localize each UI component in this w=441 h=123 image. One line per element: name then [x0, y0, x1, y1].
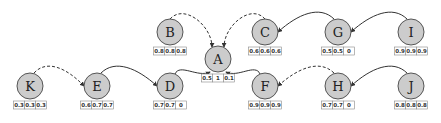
node-label: E [92, 79, 102, 94]
node-label: B [165, 25, 175, 40]
node-label: C [260, 25, 270, 40]
value-text: 0 [347, 48, 351, 54]
edge-d-to-a [175, 70, 210, 74]
node-label: D [165, 79, 175, 94]
value-text: 0.6 [260, 48, 270, 54]
value-text: 0.8 [395, 102, 405, 108]
node-f: F0.90.90.9 [249, 73, 282, 109]
node-h: H0.70.70 [322, 73, 355, 109]
value-text: 0.6 [249, 48, 259, 54]
value-text: 0.7 [92, 102, 102, 108]
graph-canvas: A0.510.1B0.80.80.8C0.60.60.6D0.70.70E0.6… [0, 0, 441, 123]
value-text: 0.9 [417, 48, 427, 54]
node-k: K0.30.30.3 [14, 73, 47, 109]
value-text: 0.1 [224, 75, 234, 81]
value-text: 0.7 [322, 102, 332, 108]
value-text: 0.8 [165, 48, 175, 54]
node-label: I [408, 25, 413, 40]
node-label: G [333, 25, 343, 40]
value-text: 0.7 [154, 102, 164, 108]
value-text: 0.3 [25, 102, 35, 108]
value-text: 0.6 [271, 48, 281, 54]
value-text: 0.5 [322, 48, 332, 54]
node-label: F [260, 79, 269, 94]
value-text: 0.8 [406, 102, 416, 108]
value-text: 0 [347, 102, 351, 108]
node-label: J [406, 79, 413, 94]
value-text: 0.6 [81, 102, 91, 108]
value-text: 0.5 [202, 75, 212, 81]
node-d: D0.70.70 [154, 73, 187, 109]
value-text: 0.9 [271, 102, 281, 108]
node-label: H [332, 79, 343, 94]
value-text: 0.9 [260, 102, 270, 108]
node-b: B0.80.80.8 [154, 19, 187, 55]
node-label: K [25, 79, 35, 94]
value-text: 0.7 [165, 102, 175, 108]
value-text: 0.5 [333, 48, 343, 54]
node-j: J0.80.80.8 [395, 73, 428, 109]
value-text: 0.7 [103, 102, 113, 108]
node-g: G0.50.50 [322, 19, 355, 55]
value-text: 1 [216, 75, 220, 81]
node-e: E0.60.70.7 [81, 73, 114, 109]
node-label: A [212, 52, 223, 67]
value-text: 0.8 [176, 48, 186, 54]
value-text: 0 [179, 102, 183, 108]
node-i: I0.90.90.9 [395, 19, 428, 55]
value-text: 0.9 [249, 102, 259, 108]
value-text: 0.8 [154, 48, 164, 54]
value-text: 0.8 [417, 102, 427, 108]
value-text: 0.9 [406, 48, 416, 54]
value-text: 0.3 [36, 102, 46, 108]
value-text: 0.9 [395, 48, 405, 54]
node-a: A0.510.1 [202, 46, 235, 82]
edge-f-to-a [226, 70, 260, 74]
value-text: 0.7 [333, 102, 343, 108]
node-c: C0.60.60.6 [249, 19, 282, 55]
value-text: 0.3 [14, 102, 24, 108]
nodes-layer: A0.510.1B0.80.80.8C0.60.60.6D0.70.70E0.6… [14, 19, 428, 109]
